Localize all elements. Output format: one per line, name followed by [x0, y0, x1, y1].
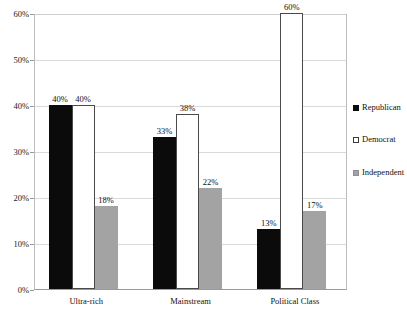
y-axis-tick-label: 30%: [0, 148, 29, 157]
x-axis-category-label: Ultra-rich: [34, 296, 138, 306]
y-axis: 0%10%20%30%40%50%60%: [0, 0, 34, 314]
legend-item-label: Democrat: [362, 135, 396, 144]
bar-value-label: 17%: [307, 201, 323, 210]
bar-democrat-mainstream[interactable]: 38%: [176, 114, 199, 289]
y-axis-tick-label: 0%: [0, 286, 29, 295]
filled-black-square-icon: [353, 105, 359, 111]
bar-value-label: 18%: [98, 196, 114, 205]
y-axis-tick-label: 40%: [0, 102, 29, 111]
legend-item-label: Independent: [362, 168, 404, 177]
y-axis-tick-label: 20%: [0, 194, 29, 203]
legend-item-republican[interactable]: Republican: [353, 103, 401, 112]
bar-independent-ultra-rich[interactable]: 18%: [95, 206, 118, 289]
legend-item-democrat[interactable]: Democrat: [353, 135, 396, 144]
hollow-square-icon: [353, 137, 359, 143]
bar-value-label: 38%: [180, 104, 196, 113]
bar-value-label: 60%: [284, 3, 300, 12]
y-axis-tick-label: 50%: [0, 56, 29, 65]
x-axis-category-label: Mainstream: [138, 296, 242, 306]
bar-group: 40%40%18%: [49, 14, 118, 289]
bar-republican-political-class[interactable]: 13%: [257, 229, 280, 289]
bar-value-label: 22%: [203, 178, 219, 187]
bar-republican-ultra-rich[interactable]: 40%: [49, 105, 72, 289]
bar-value-label: 40%: [75, 95, 91, 104]
bar-group: 33%38%22%: [153, 14, 222, 289]
bar-value-label: 33%: [157, 127, 173, 136]
x-axis-category-label: Political Class: [243, 296, 347, 306]
grouped-bar-chart: 0%10%20%30%40%50%60% 40%40%18%33%38%22%1…: [0, 0, 407, 314]
bar-democrat-ultra-rich[interactable]: 40%: [72, 105, 95, 289]
y-axis-tick-mark: [30, 290, 34, 291]
bar-independent-political-class[interactable]: 17%: [303, 211, 326, 289]
filled-gray-square-icon: [353, 170, 359, 176]
bar-value-label: 40%: [52, 95, 68, 104]
bar-independent-mainstream[interactable]: 22%: [199, 188, 222, 289]
y-axis-tick-label: 10%: [0, 240, 29, 249]
bar-value-label: 13%: [261, 219, 277, 228]
legend-item-label: Republican: [362, 103, 401, 112]
legend-item-independent[interactable]: Independent: [353, 168, 404, 177]
bar-democrat-political-class[interactable]: 60%: [280, 13, 303, 289]
plot-area: 40%40%18%33%38%22%13%60%17%: [34, 14, 347, 290]
bar-group: 13%60%17%: [257, 14, 326, 289]
bar-republican-mainstream[interactable]: 33%: [153, 137, 176, 289]
y-axis-tick-label: 60%: [0, 10, 29, 19]
